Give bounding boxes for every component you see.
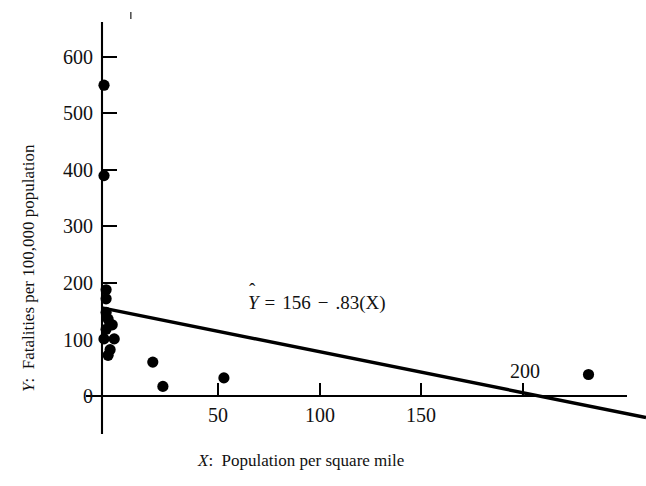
data-point <box>147 357 158 368</box>
data-point <box>218 372 229 383</box>
data-point <box>98 170 109 181</box>
y-tick-label-400: 400 <box>63 159 93 181</box>
equation-hat-accent: ˆ <box>249 279 256 300</box>
equation-slope-term: .83(X) <box>336 292 386 314</box>
scan-artifact-mark <box>130 12 132 19</box>
y-tick-label-500: 500 <box>63 102 93 124</box>
y-axis-title-rest: : Fatalities per 100,000 population <box>19 144 38 382</box>
data-point <box>103 350 114 361</box>
equation-equals: = <box>265 292 276 313</box>
data-point <box>101 324 112 335</box>
y-tick-label-300: 300 <box>63 215 93 237</box>
data-point <box>109 333 120 344</box>
x-tick-label-100: 100 <box>305 404 335 426</box>
x-axis-title: X: Population per square mile <box>197 451 404 470</box>
equation-intercept: 156 <box>282 292 311 313</box>
y-tick-label-0: 0 <box>83 385 93 407</box>
x-tick-label-200: 200 <box>510 360 540 382</box>
equation-minus: − <box>318 292 329 313</box>
data-point <box>157 381 168 392</box>
x-tick-label-50: 50 <box>208 404 228 426</box>
data-point <box>98 333 109 344</box>
data-point <box>583 369 594 380</box>
y-axis-title: Y: Fatalities per 100,000 population <box>19 144 38 392</box>
scatter-plot-figure: 600 500 400 300 200 100 0 50 100 150 200 <box>0 0 646 486</box>
y-tick-label-600: 600 <box>63 46 93 68</box>
equation-text: Y=156−.83(X) <box>248 292 386 314</box>
plot-canvas: 600 500 400 300 200 100 0 50 100 150 200 <box>0 0 646 486</box>
data-point <box>101 293 112 304</box>
y-tick-label-200: 200 <box>63 272 93 294</box>
x-axis-title-rest: : Population per square mile <box>208 451 404 470</box>
x-tick-label-150: 150 <box>406 404 436 426</box>
data-point <box>98 80 109 91</box>
x-axis-title-var: X <box>197 451 209 470</box>
y-tick-label-100: 100 <box>63 329 93 351</box>
